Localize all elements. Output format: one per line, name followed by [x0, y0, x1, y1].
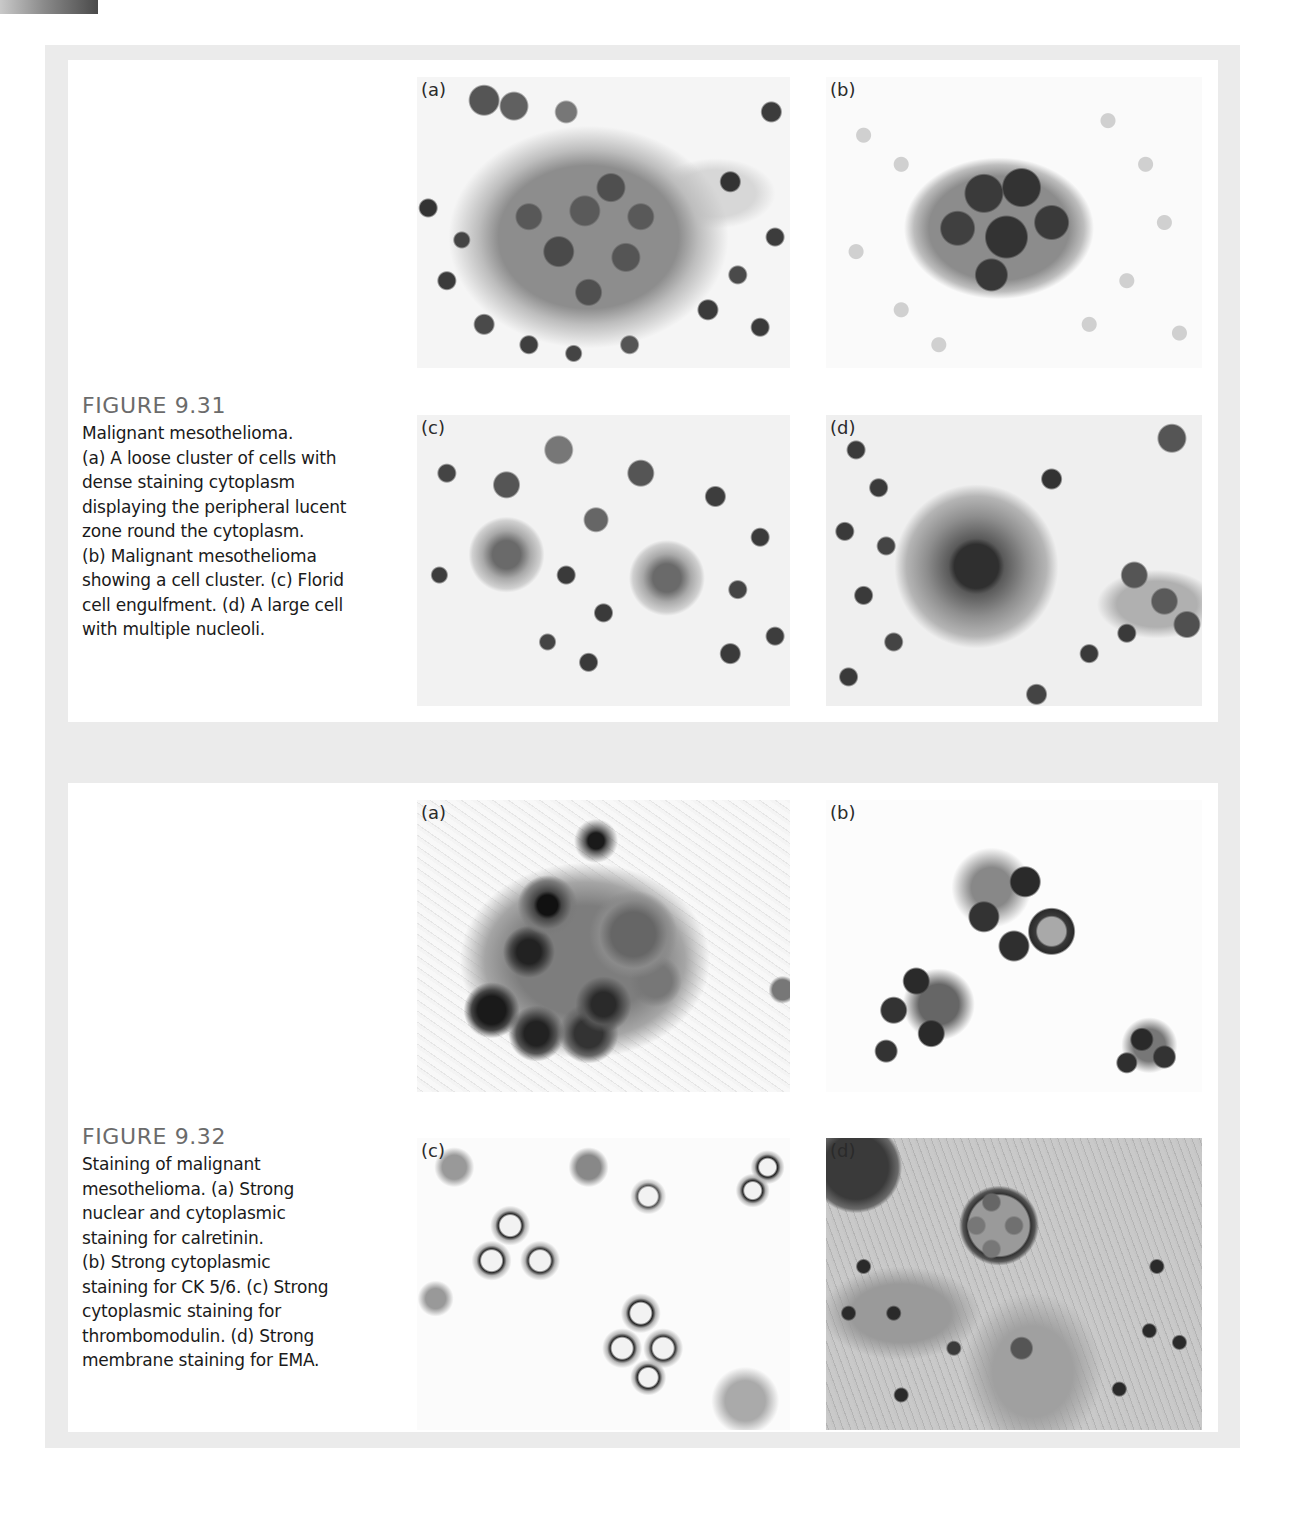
- panel-label: (a): [421, 802, 446, 823]
- panel-label: (d): [830, 417, 855, 438]
- caption-line: (a) A loose cluster of cells with: [82, 446, 387, 471]
- caption-line: cytoplasmic staining for: [82, 1299, 387, 1324]
- caption-line: nuclear and cytoplasmic: [82, 1201, 387, 1226]
- caption-line: displaying the peripheral lucent: [82, 495, 387, 520]
- panel-label: (c): [421, 417, 445, 438]
- caption-line: (b) Malignant mesothelioma: [82, 544, 387, 569]
- panel-label: (c): [421, 1140, 445, 1161]
- page-corner-tab: [0, 0, 98, 14]
- caption-line: with multiple nucleoli.: [82, 617, 387, 642]
- figure-9-32-caption: FIGURE 9.32 Staining of malignant mesoth…: [82, 1124, 387, 1373]
- micrograph-9-31-b: (b): [826, 77, 1202, 368]
- caption-line: (b) Strong cytoplasmic: [82, 1250, 387, 1275]
- figure-title: FIGURE 9.31: [82, 393, 387, 419]
- micrograph-9-32-c: (c): [417, 1138, 790, 1430]
- caption-line: showing a cell cluster. (c) Florid: [82, 568, 387, 593]
- caption-line: staining for calretinin.: [82, 1226, 387, 1251]
- micrograph-9-32-d: (d): [826, 1138, 1202, 1430]
- micrograph-9-31-c: (c): [417, 415, 790, 706]
- caption-line: zone round the cytoplasm.: [82, 519, 387, 544]
- micrograph-9-31-a: (a): [417, 77, 790, 368]
- caption-line: thrombomodulin. (d) Strong: [82, 1324, 387, 1349]
- panel-label: (b): [830, 802, 855, 823]
- caption-line: cell engulfment. (d) A large cell: [82, 593, 387, 618]
- caption-line: staining for CK 5/6. (c) Strong: [82, 1275, 387, 1300]
- panel-label: (d): [830, 1140, 855, 1161]
- caption-line: dense staining cytoplasm: [82, 470, 387, 495]
- caption-line: Malignant mesothelioma.: [82, 421, 387, 446]
- panel-label: (a): [421, 79, 446, 100]
- figure-9-31-caption: FIGURE 9.31 Malignant mesothelioma. (a) …: [82, 393, 387, 642]
- figure-title: FIGURE 9.32: [82, 1124, 387, 1150]
- caption-line: mesothelioma. (a) Strong: [82, 1177, 387, 1202]
- micrograph-9-31-d: (d): [826, 415, 1202, 706]
- caption-line: membrane staining for EMA.: [82, 1348, 387, 1373]
- panel-label: (b): [830, 79, 855, 100]
- micrograph-9-32-b: (b): [826, 800, 1202, 1092]
- micrograph-9-32-a: (a): [417, 800, 790, 1092]
- caption-line: Staining of malignant: [82, 1152, 387, 1177]
